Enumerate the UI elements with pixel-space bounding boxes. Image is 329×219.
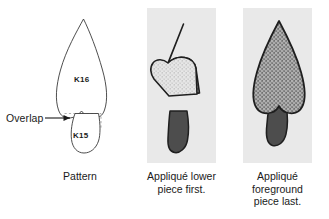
caption-pattern: Pattern — [28, 170, 132, 183]
caption-right: Appliqué foreground piece last. — [231, 170, 324, 208]
right-foreground-piece — [253, 21, 304, 113]
middle-lower-fabric-piece — [151, 57, 197, 96]
middle-plate-illustration — [147, 8, 216, 163]
caption-middle: Appliqué lower piece first. — [131, 170, 232, 195]
caption-right-line1: Appliqué — [257, 170, 298, 182]
caption-middle-line1: Appliqué lower — [147, 170, 216, 182]
middle-loose-piece — [168, 111, 188, 153]
pattern-line-art-panel: Overlap K16 K15 — [0, 0, 146, 164]
caption-right-line3: piece last. — [254, 195, 301, 207]
overlap-label: Overlap — [6, 112, 43, 124]
right-plate-illustration — [243, 8, 312, 163]
caption-right-line2: foreground — [252, 183, 303, 195]
pattern-label-k15: K15 — [73, 131, 88, 140]
caption-middle-line2: piece first. — [158, 183, 206, 195]
middle-photo-plate — [147, 8, 216, 163]
pattern-shape-k16 — [56, 19, 106, 118]
pattern-label-k16: K16 — [74, 75, 89, 84]
caption-pattern-text: Pattern — [63, 170, 97, 182]
right-photo-plate — [243, 8, 312, 163]
applique-order-figure: Overlap K16 K15 — [0, 0, 329, 219]
